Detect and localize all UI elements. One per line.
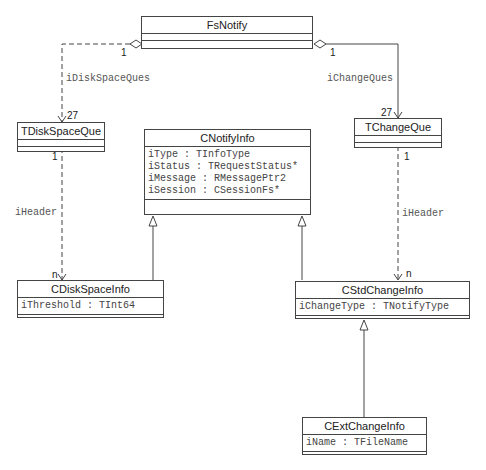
attribute: iStatus : TRequestStatus*: [148, 161, 307, 173]
attribute: iType : TInfoType: [148, 149, 307, 161]
multiplicity-disk-header-target: n: [52, 269, 58, 280]
class-name: TChangeQue: [355, 119, 441, 136]
class-name: FsNotify: [142, 17, 312, 34]
class-tchangeque: TChangeQue: [354, 118, 442, 148]
operations-compartment: [18, 315, 163, 321]
class-tdiskspaceque: TDiskSpaceQue: [17, 122, 105, 152]
attributes-compartment: iType : TInfoType iStatus : TRequestStat…: [145, 147, 310, 200]
attribute: iName : TFileName: [306, 437, 423, 449]
multiplicity-change-header-source: 1: [404, 151, 410, 162]
operations-compartment: [303, 452, 426, 458]
multiplicity-disk-ques-source: 1: [121, 47, 127, 58]
class-name: CStdChangeInfo: [296, 282, 469, 299]
class-fsnotify: FsNotify: [141, 16, 313, 49]
association-label-disk-ques: iDiskSpaceQues: [66, 73, 150, 84]
association-label-disk-header: iHeader: [15, 207, 57, 218]
attributes-compartment: [142, 34, 312, 41]
attribute: iChangeType : TNotifyType: [299, 301, 466, 313]
operations-compartment: [296, 316, 469, 322]
operations-compartment: [18, 147, 104, 153]
class-cdiskspaceinfo: CDiskSpaceInfo iThreshold : TInt64: [17, 280, 164, 318]
attribute: iMessage : RMessagePtr2: [148, 173, 307, 185]
attributes-compartment: iName : TFileName: [303, 435, 426, 452]
multiplicity-change-header-target: n: [406, 268, 412, 279]
class-cnotifyinfo: CNotifyInfo iType : TInfoType iStatus : …: [144, 129, 311, 215]
class-name: CExtChangeInfo: [303, 418, 426, 435]
class-name: CNotifyInfo: [145, 130, 310, 147]
attribute: iThreshold : TInt64: [21, 300, 160, 312]
class-cstdchangeinfo: CStdChangeInfo iChangeType : TNotifyType: [295, 281, 470, 319]
attributes-compartment: iChangeType : TNotifyType: [296, 299, 469, 316]
multiplicity-disk-header-source: 1: [52, 151, 58, 162]
attributes-compartment: [18, 140, 104, 147]
class-name: CDiskSpaceInfo: [18, 281, 163, 298]
association-label-change-ques: iChangeQues: [327, 73, 393, 84]
operations-compartment: [355, 143, 441, 149]
operations-compartment: [142, 41, 312, 47]
multiplicity-change-ques-source: 1: [330, 47, 336, 58]
attributes-compartment: [355, 136, 441, 143]
attributes-compartment: iThreshold : TInt64: [18, 298, 163, 315]
multiplicity-disk-ques-target: 27: [67, 110, 78, 121]
class-cextchangeinfo: CExtChangeInfo iName : TFileName: [302, 417, 427, 455]
attribute: iSession : CSessionFs*: [148, 185, 307, 197]
multiplicity-change-ques-target: 27: [381, 107, 392, 118]
operations-compartment: [145, 200, 310, 206]
class-name: TDiskSpaceQue: [18, 123, 104, 140]
connector-layer: [0, 0, 486, 470]
association-label-change-header: iHeader: [402, 208, 444, 219]
